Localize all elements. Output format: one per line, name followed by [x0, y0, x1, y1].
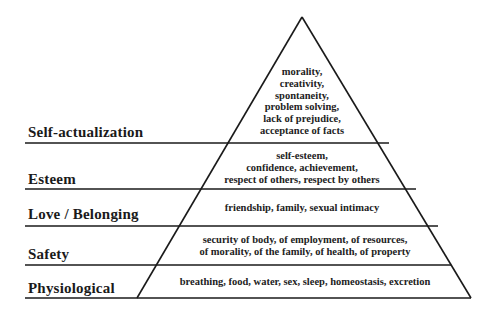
level-description-safety: security of body, of employment, of reso…	[160, 234, 450, 258]
level-label-love-belonging: Love / Belonging	[28, 206, 139, 223]
level-label-self-actualization: Self-actualization	[28, 124, 143, 141]
maslow-pyramid-diagram: Self-actualization Esteem Love / Belongi…	[0, 0, 492, 317]
level-description-esteem: self-esteem, confidence, achievement, re…	[202, 150, 402, 185]
level-description-self-actualization: morality, creativity, spontaneity, probl…	[232, 66, 372, 137]
level-description-physiological: breathing, food, water, sex, sleep, home…	[150, 276, 460, 288]
level-description-love-belonging: friendship, family, sexual intimacy	[192, 202, 412, 214]
level-label-safety: Safety	[28, 246, 69, 263]
level-label-physiological: Physiological	[28, 280, 115, 297]
level-label-esteem: Esteem	[28, 171, 76, 188]
